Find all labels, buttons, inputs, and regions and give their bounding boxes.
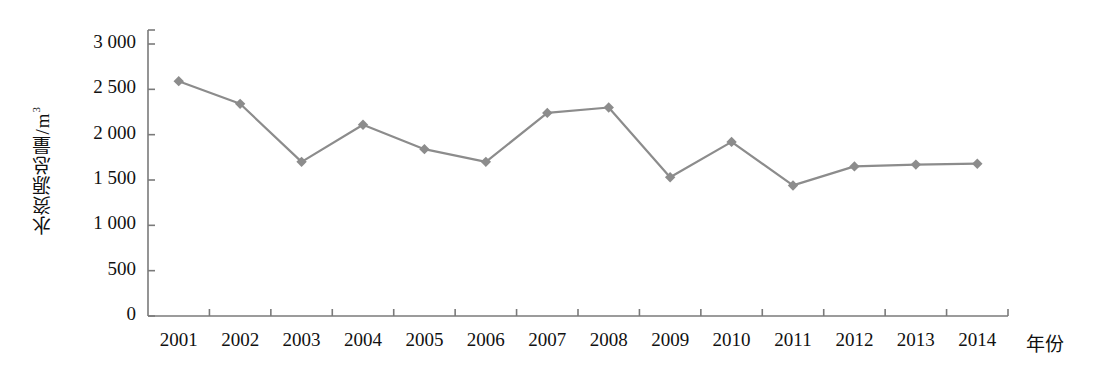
data-point-marker xyxy=(972,158,982,168)
x-axis-title: 年份 xyxy=(1026,329,1064,356)
x-axis-tick-label: 2001 xyxy=(144,329,214,351)
data-point-marker xyxy=(911,159,921,169)
x-axis-tick-label: 2014 xyxy=(942,329,1012,351)
y-axis-tick-label: 1 000 xyxy=(56,212,136,234)
x-axis-tick-label: 2010 xyxy=(697,329,767,351)
x-axis-tick-label: 2011 xyxy=(758,329,828,351)
axis-ticks xyxy=(148,30,1008,316)
data-point-marker xyxy=(174,76,184,86)
y-axis-tick-label: 1 500 xyxy=(56,167,136,189)
x-axis-tick-label: 2004 xyxy=(328,329,398,351)
data-series-line xyxy=(179,81,978,185)
x-axis-tick-label: 2012 xyxy=(819,329,889,351)
x-axis-tick-label: 2009 xyxy=(635,329,705,351)
x-axis-tick-label: 2005 xyxy=(389,329,459,351)
x-axis-tick-label: 2008 xyxy=(574,329,644,351)
x-axis-tick-label: 2007 xyxy=(512,329,582,351)
axis-lines xyxy=(148,30,1008,316)
y-axis-tick-label: 3 000 xyxy=(56,31,136,53)
y-axis-tick-label: 0 xyxy=(56,303,136,325)
x-axis-tick-label: 2002 xyxy=(205,329,275,351)
data-point-marker xyxy=(849,161,859,171)
x-axis-tick-label: 2013 xyxy=(881,329,951,351)
x-axis-tick-label: 2006 xyxy=(451,329,521,351)
chart-figure: 水资源总量/m3 05001 0001 5002 0002 5003 000 2… xyxy=(0,0,1093,389)
y-axis-tick-label: 2 000 xyxy=(56,122,136,144)
data-point-marker xyxy=(419,144,429,154)
data-point-marker xyxy=(358,119,368,129)
y-axis-tick-label: 500 xyxy=(56,258,136,280)
x-axis-tick-label: 2003 xyxy=(267,329,337,351)
data-point-markers xyxy=(174,76,983,191)
y-axis-tick-label: 2 500 xyxy=(56,76,136,98)
